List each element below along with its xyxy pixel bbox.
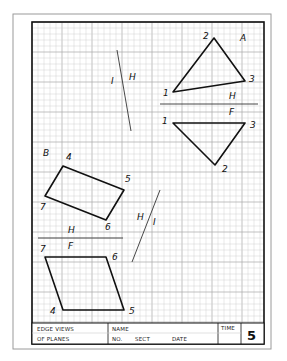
date-label: DATE [172, 336, 187, 342]
problem-b-label: B [43, 148, 49, 158]
fold-label-a-h: H [229, 91, 236, 101]
point-label-b-front-6: 6 [112, 252, 118, 262]
point-label-a-front-3: 3 [250, 120, 256, 130]
title-line-2: OF PLANES [37, 336, 70, 342]
title-line-1: EDGE VIEWS [37, 326, 74, 332]
point-label-a-top-2: 2 [203, 31, 209, 41]
problem-a-label: A [239, 33, 246, 43]
point-label-b-top-4: 4 [66, 152, 72, 162]
aux-fold-label-a-i: I [111, 76, 114, 86]
point-label-b-front-7: 7 [40, 244, 46, 254]
point-label-a-top-1: 1 [163, 88, 169, 98]
no-label: NO. [112, 336, 123, 342]
sect-label: SECT [135, 336, 150, 342]
point-label-b-front-5: 5 [129, 306, 135, 316]
point-label-a-top-3: 3 [249, 74, 255, 84]
drawing-sheet: A 1 2 3 H F 1 3 2 I H B 4 5 6 7 H F 7 6 … [0, 0, 287, 361]
aux-fold-label-a-h: H [129, 72, 136, 82]
fold-label-b-h: H [68, 225, 75, 235]
title-block: EDGE VIEWS OF PLANES NAME NO. SECT DATE … [32, 323, 264, 344]
point-label-b-top-6: 6 [105, 222, 111, 232]
point-label-b-top-5: 5 [125, 174, 131, 184]
point-label-a-front-1: 1 [162, 116, 168, 126]
aux-fold-label-b-i: I [153, 217, 156, 227]
sheet-number: 5 [247, 328, 256, 343]
fold-label-b-f: F [68, 241, 74, 251]
aux-fold-label-b-h: H [137, 212, 144, 222]
time-label: TIME [220, 325, 235, 331]
fold-label-a-f: F [229, 107, 235, 117]
point-label-a-front-2: 2 [222, 164, 228, 174]
point-label-b-top-7: 7 [40, 202, 46, 212]
point-label-b-front-4: 4 [50, 306, 56, 316]
name-label: NAME [112, 326, 129, 332]
